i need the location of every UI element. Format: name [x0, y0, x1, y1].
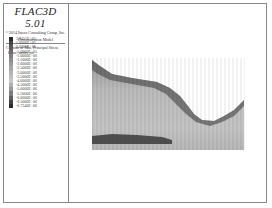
color-scale: 3.9451E+055.0000E+050.0000E+00-5.0000E+0… [9, 37, 37, 108]
color-swatch [9, 104, 13, 108]
app-title: FLAC3D 5.01 [3, 5, 68, 29]
legend-value: -6.7240E+06 [16, 104, 37, 108]
legend-panel: FLAC3D 5.01 ©2014 Itasca Consulting Grou… [3, 3, 69, 203]
legend-row: -6.7240E+06 [9, 104, 37, 108]
copyright-text: ©2014 Itasca Consulting Group, Inc. [3, 30, 68, 35]
stress-contour-plot [92, 58, 245, 150]
